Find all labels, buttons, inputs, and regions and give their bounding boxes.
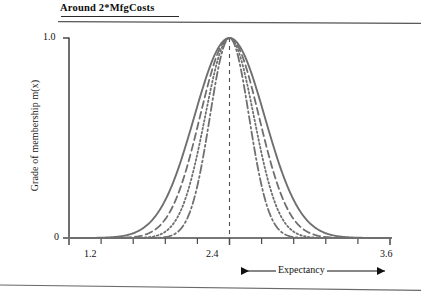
plot-area — [0, 0, 421, 297]
footer-rule — [0, 284, 421, 292]
figure-container: Around 2*MfgCosts Grade of membership m(… — [0, 0, 421, 297]
expectancy-label: Expectancy — [276, 264, 327, 275]
